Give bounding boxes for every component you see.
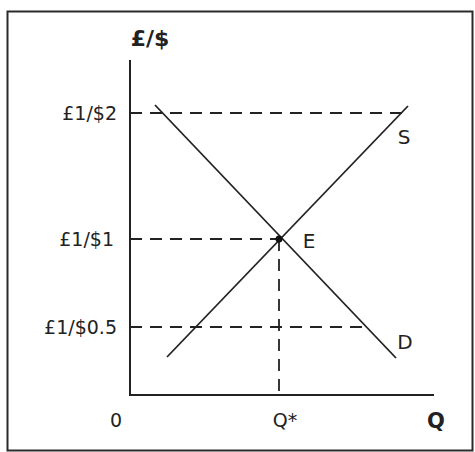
- origin-label: 0: [110, 409, 122, 431]
- x-axis-label: Q: [427, 409, 445, 433]
- demand-curve: [155, 105, 396, 358]
- q-star-label: Q*: [273, 409, 297, 431]
- y-tick-mid: £1/$1: [59, 228, 114, 250]
- y-axis-label: £/$: [131, 26, 170, 51]
- y-tick-high: £1/$2: [62, 102, 117, 124]
- demand-label: D: [397, 330, 412, 354]
- supply-label: S: [398, 125, 411, 149]
- equilibrium-label: E: [303, 229, 316, 253]
- y-tick-low: £1/$0.5: [44, 316, 117, 338]
- equilibrium-point: [276, 236, 283, 243]
- forex-supply-demand-diagram: £/$ £1/$2 £1/$1 £1/$0.5 0 Q* Q S D E: [0, 0, 475, 452]
- supply-curve: [167, 106, 408, 357]
